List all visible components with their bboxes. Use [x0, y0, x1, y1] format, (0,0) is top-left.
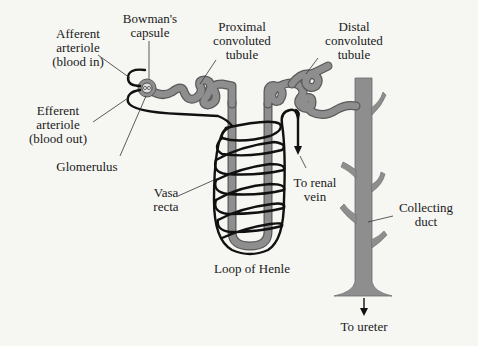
label-line: tubule [316, 48, 392, 62]
label-line: tubule [204, 48, 280, 62]
label-line: To renal [284, 176, 346, 190]
bowmans-capsule [138, 79, 156, 97]
label-line: vein [284, 190, 346, 204]
label-line: recta [148, 200, 184, 214]
label-line: capsule [118, 26, 182, 40]
label-line: Loop of Henle [204, 262, 300, 276]
label-to-ureter: To ureter [326, 320, 402, 334]
label-bowmans-capsule: Bowman's capsule [118, 12, 182, 40]
label-line: duct [388, 215, 464, 229]
label-distal-convoluted-tubule: Distal convoluted tubule [316, 20, 392, 62]
label-proximal-convoluted-tubule: Proximal convoluted tubule [204, 20, 280, 62]
label-vasa-recta: Vasa recta [148, 186, 184, 214]
label-line: arteriole [22, 118, 94, 132]
label-line: Glomerulus [52, 160, 122, 174]
label-collecting-duct: Collecting duct [388, 201, 464, 229]
label-line: Proximal [204, 20, 280, 34]
label-line: Vasa [148, 186, 184, 200]
label-to-renal-vein: To renal vein [284, 176, 346, 204]
label-line: convoluted [204, 34, 280, 48]
label-line: convoluted [316, 34, 392, 48]
label-line: (blood in) [46, 55, 110, 69]
label-line: Distal [316, 20, 392, 34]
label-line: (blood out) [22, 132, 94, 146]
label-afferent-arteriole: Afferent arteriole (blood in) [46, 27, 110, 69]
label-line: arteriole [46, 41, 110, 55]
label-loop-of-henle: Loop of Henle [204, 262, 300, 276]
label-glomerulus: Glomerulus [52, 160, 122, 174]
label-line: Efferent [22, 104, 94, 118]
label-line: Bowman's [118, 12, 182, 26]
label-line: Afferent [46, 27, 110, 41]
label-line: To ureter [326, 320, 402, 334]
label-efferent-arteriole: Efferent arteriole (blood out) [22, 104, 94, 146]
label-line: Collecting [388, 201, 464, 215]
